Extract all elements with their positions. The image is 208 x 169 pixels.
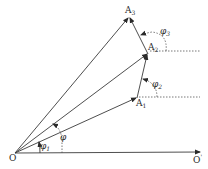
label-phi1: φ1 [40,141,50,152]
label-o: O [9,153,16,163]
vector-o-a2 [15,54,147,153]
vector-o-a3 [15,18,128,153]
label-a2: A2 [147,42,159,53]
label-a3: A3 [124,5,136,16]
label-o-prime: O' [193,153,202,165]
vector-o-a1 [15,98,136,153]
label-phi3: φ3 [160,26,170,37]
label-phi: φ [60,132,67,142]
label-phi2: φ2 [152,79,162,90]
vector-o-o-prime [15,152,200,153]
vector-a2-a3 [130,18,148,54]
label-a1: A1 [135,98,146,109]
vector-diagram: O O' A1 A2 A3 φ φ1 φ2 φ3 [0,0,208,169]
vector-a1-a2 [137,55,147,98]
